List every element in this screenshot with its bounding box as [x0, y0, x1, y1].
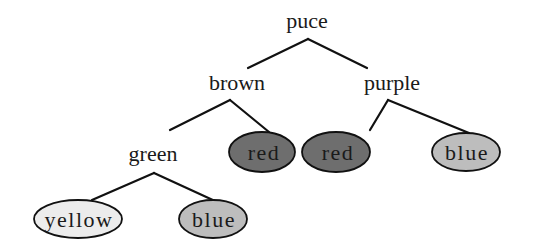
- node-label-puce: puce: [286, 8, 328, 33]
- node-label-brown: brown: [209, 70, 265, 95]
- edge-green-yellow: [92, 173, 154, 200]
- node-label-green: green: [129, 141, 178, 166]
- node-blue-left: blue: [179, 200, 247, 238]
- node-yellow: yellow: [34, 200, 122, 238]
- node-label-yellow: yellow: [45, 207, 114, 232]
- node-label-blue-right: blue: [445, 140, 489, 165]
- edge-brown-green: [170, 100, 230, 130]
- node-puce: puce: [286, 8, 328, 33]
- node-label-red-right: red: [322, 140, 355, 165]
- node-green: green: [129, 141, 178, 166]
- node-blue-right: blue: [432, 133, 500, 171]
- edge-green-blue: [154, 173, 215, 201]
- edge-puce-purple: [308, 39, 367, 68]
- node-red-left: red: [229, 132, 295, 172]
- edge-puce-brown: [248, 39, 308, 68]
- node-purple: purple: [364, 70, 420, 95]
- node-label-purple: purple: [364, 70, 420, 95]
- edge-purple-red: [370, 100, 388, 130]
- edge-purple-blue: [388, 100, 469, 133]
- tree-edges: [92, 39, 469, 201]
- node-label-red-left: red: [248, 140, 281, 165]
- node-red-right: red: [302, 132, 370, 172]
- tree-diagram: puce brown purple green red red blue yel…: [0, 0, 552, 251]
- node-brown: brown: [209, 70, 265, 95]
- node-label-blue-left: blue: [192, 207, 236, 232]
- edge-brown-red: [230, 100, 269, 132]
